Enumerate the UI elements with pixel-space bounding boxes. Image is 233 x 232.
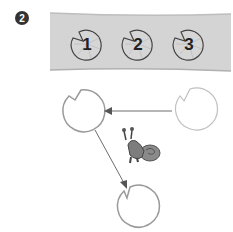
arrow-right-to-left xyxy=(104,107,172,115)
right-pad xyxy=(176,88,218,130)
lily-pad-1-label: 1 xyxy=(82,35,91,54)
step-badge-label: 2 xyxy=(19,13,25,24)
lily-pad-3-label: 3 xyxy=(184,35,193,54)
bottom-pad xyxy=(117,185,159,227)
step-badge: 2 xyxy=(15,11,29,25)
snail-icon xyxy=(122,127,160,163)
left-pad xyxy=(63,90,105,132)
lily-pad-2-label: 2 xyxy=(133,35,142,54)
arrow-left-to-bottom xyxy=(95,130,127,189)
lily-pad-diagram: 2 1 2 3 xyxy=(0,0,233,232)
